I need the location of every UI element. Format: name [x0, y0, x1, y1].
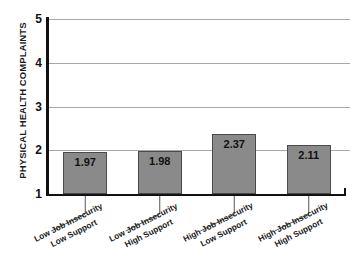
bar-value-label-2: 1.98 — [139, 155, 181, 167]
category-label-3: High Job InsecurityLow Support — [181, 199, 261, 255]
bar-4: 2.11 — [287, 145, 331, 194]
bar-chart: PHYSICAL HEALTH COMPLAINTS 12345 1.971.9… — [0, 0, 360, 261]
category-label-2: Low Job InsecurityHigh Support — [107, 200, 185, 256]
x-axis-end-tick — [344, 188, 346, 196]
y-tick-4: 4 — [24, 57, 42, 69]
y-tick-5: 5 — [24, 13, 42, 25]
category-label-1: Low Job InsecurityLow Support — [32, 200, 110, 256]
y-tick-3: 3 — [24, 101, 42, 113]
bar-value-label-1: 1.97 — [64, 156, 106, 168]
bar-2: 1.98 — [138, 151, 182, 194]
bar-value-label-3: 2.37 — [213, 138, 255, 150]
category-label-4: High Job InsecurityHigh Support — [256, 199, 336, 255]
y-tick-2: 2 — [24, 144, 42, 156]
y-tick-1: 1 — [24, 188, 42, 200]
bar-value-label-4: 2.11 — [288, 149, 330, 161]
gridline-4 — [48, 63, 350, 64]
gridline-3 — [48, 107, 350, 108]
bar-1: 1.97 — [63, 152, 107, 194]
y-axis-line — [46, 17, 49, 196]
gridline-5 — [48, 19, 350, 20]
bar-3: 2.37 — [212, 134, 256, 194]
